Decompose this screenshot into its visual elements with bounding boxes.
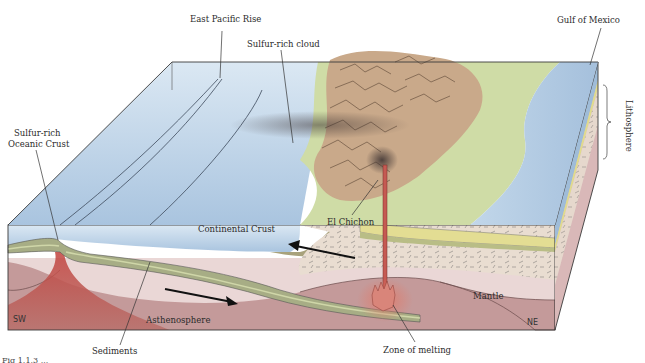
label-east-pacific-rise: East Pacific Rise [190,14,261,24]
label-sulfur-rich-cloud: Sulfur-rich cloud [247,39,320,49]
label-sulfur-rich-oceanic-crust-1: Sulfur-rich [14,128,61,138]
label-el-chichon: El Chichon [327,217,375,227]
label-continental-crust: Continental Crust [198,224,276,234]
magma-conduit [383,165,387,295]
label-sw: SW [13,315,26,324]
label-sulfur-rich-oceanic-crust-2: Oceanic Crust [8,139,70,149]
label-gulf-of-mexico: Gulf of Mexico [557,15,620,25]
block-diagram: East Pacific Rise Sulfur-rich cloud Gulf… [0,0,645,363]
sulfur-cloud-plume [230,111,410,139]
label-ne: NE [527,318,538,327]
label-asthenosphere: Asthenosphere [145,315,210,325]
label-lithosphere: Lithosphere [624,100,634,152]
lithosphere-brace [603,85,611,159]
figure-caption-partial: Fig 1.1.3 ... [2,354,462,363]
cross-section-front [8,222,555,330]
label-mantle: Mantle [473,291,503,301]
